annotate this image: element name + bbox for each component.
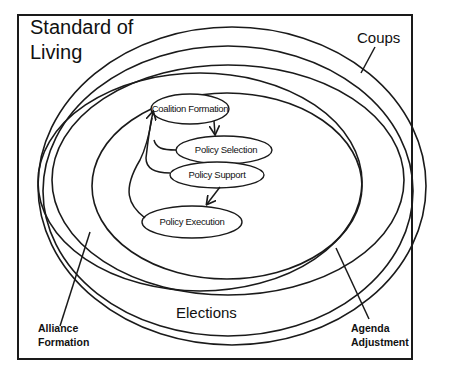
diagram-canvas: Coalition Formation Policy Selection Pol… — [0, 0, 456, 380]
node-label-policy-selection: Policy Selection — [195, 144, 257, 155]
title-line1: Standard of — [30, 16, 134, 38]
label-agenda-adjustment-line2: Adjustment — [351, 336, 409, 348]
node-label-coalition-formation: Coalition Formation — [152, 103, 229, 114]
title-line2: Living — [30, 41, 82, 63]
label-coups: Coups — [357, 29, 400, 46]
label-alliance-formation-line2: Formation — [38, 336, 89, 348]
label-agenda-adjustment-line1: Agenda — [351, 322, 390, 334]
node-label-policy-execution: Policy Execution — [160, 216, 225, 227]
label-elections: Elections — [176, 304, 237, 321]
pointer-alliance-formation — [60, 232, 90, 326]
feedback-selection — [154, 140, 176, 150]
pointer-coups — [361, 47, 375, 73]
label-alliance-formation-line1: Alliance — [38, 322, 78, 334]
node-label-policy-support: Policy Support — [188, 169, 246, 180]
arrow-support-to-execution — [207, 187, 220, 204]
pointer-agenda-adjustment — [336, 248, 369, 319]
arrow-coalition-to-selection — [214, 121, 215, 134]
feedback-execution — [129, 118, 152, 218]
